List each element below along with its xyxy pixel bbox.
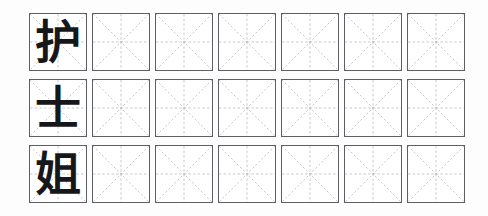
practice-cell[interactable] xyxy=(281,145,339,203)
practice-row: 姐 xyxy=(29,145,465,203)
practice-character xyxy=(219,80,275,136)
practice-character xyxy=(408,146,464,202)
character-grid: 护士姐 xyxy=(29,13,465,203)
practice-cell[interactable] xyxy=(218,13,276,71)
practice-cell[interactable] xyxy=(218,145,276,203)
model-character-cell[interactable]: 姐 xyxy=(29,145,87,203)
practice-cell[interactable] xyxy=(92,145,150,203)
model-character: 士 xyxy=(30,80,86,136)
practice-character xyxy=(282,80,338,136)
practice-character xyxy=(156,80,212,136)
practice-cell[interactable] xyxy=(407,145,465,203)
practice-row: 士 xyxy=(29,79,465,137)
model-character: 护 xyxy=(30,14,86,70)
practice-cell[interactable] xyxy=(155,79,213,137)
practice-cell[interactable] xyxy=(344,145,402,203)
practice-cell[interactable] xyxy=(281,79,339,137)
practice-cell[interactable] xyxy=(407,79,465,137)
practice-character xyxy=(408,14,464,70)
practice-character xyxy=(93,146,149,202)
practice-character xyxy=(219,14,275,70)
practice-cell[interactable] xyxy=(281,13,339,71)
practice-worksheet: 护士姐 xyxy=(0,0,488,216)
practice-cell[interactable] xyxy=(407,13,465,71)
practice-character xyxy=(345,80,401,136)
practice-character xyxy=(282,146,338,202)
model-character-cell[interactable]: 护 xyxy=(29,13,87,71)
practice-cell[interactable] xyxy=(344,13,402,71)
practice-cell[interactable] xyxy=(218,79,276,137)
model-character: 姐 xyxy=(30,146,86,202)
practice-character xyxy=(408,80,464,136)
practice-character xyxy=(345,14,401,70)
practice-cell[interactable] xyxy=(155,145,213,203)
practice-character xyxy=(219,146,275,202)
practice-character xyxy=(93,80,149,136)
practice-character xyxy=(156,146,212,202)
practice-cell[interactable] xyxy=(155,13,213,71)
practice-character xyxy=(93,14,149,70)
model-character-cell[interactable]: 士 xyxy=(29,79,87,137)
practice-character xyxy=(345,146,401,202)
practice-cell[interactable] xyxy=(92,79,150,137)
practice-cell[interactable] xyxy=(344,79,402,137)
practice-character xyxy=(282,14,338,70)
practice-cell[interactable] xyxy=(92,13,150,71)
practice-character xyxy=(156,14,212,70)
practice-row: 护 xyxy=(29,13,465,71)
